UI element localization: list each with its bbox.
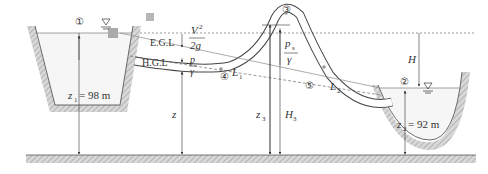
svg-text:2: 2 bbox=[337, 87, 341, 95]
svg-text:z: z bbox=[171, 108, 177, 120]
point-1-label: ① bbox=[75, 16, 84, 27]
z1-label: z bbox=[67, 89, 73, 101]
svg-text:3: 3 bbox=[293, 115, 297, 123]
svg-text:p: p bbox=[284, 37, 291, 49]
siphon-pipe bbox=[135, 8, 392, 103]
egl-label: E.G.L bbox=[150, 37, 174, 48]
svg-text:p: p bbox=[189, 54, 195, 65]
siphon-diagram: ① ③ ④ ⑤ ② E.G.L H.G.L V 2 2g p γ p s γ L… bbox=[0, 0, 488, 174]
svg-text:3: 3 bbox=[262, 115, 266, 123]
point-2-label: ② bbox=[400, 76, 409, 87]
svg-text:γ: γ bbox=[287, 53, 292, 65]
hgl-label: H.G.L bbox=[142, 57, 168, 68]
svg-text:H: H bbox=[407, 53, 417, 65]
svg-text:V: V bbox=[191, 24, 199, 36]
point-4-label: ④ bbox=[220, 71, 229, 82]
svg-text:2g: 2g bbox=[190, 39, 202, 51]
svg-text:L: L bbox=[231, 66, 238, 78]
ground bbox=[26, 155, 476, 163]
svg-text:1: 1 bbox=[239, 73, 243, 81]
point-3-label: ③ bbox=[282, 4, 291, 15]
svg-text:L: L bbox=[329, 80, 336, 92]
svg-text:1: 1 bbox=[74, 96, 78, 104]
svg-text:z: z bbox=[255, 108, 261, 120]
lower-reservoir bbox=[372, 72, 470, 150]
z2-value: = 92 m bbox=[408, 118, 440, 130]
svg-text:2: 2 bbox=[403, 125, 407, 133]
svg-text:2: 2 bbox=[199, 23, 203, 31]
water-surface-symbol-left bbox=[101, 19, 111, 29]
z2-label: z bbox=[396, 118, 402, 130]
svg-text:s: s bbox=[292, 44, 295, 52]
point-5-label: ⑤ bbox=[305, 80, 314, 91]
z1-value: = 98 m bbox=[79, 89, 111, 101]
